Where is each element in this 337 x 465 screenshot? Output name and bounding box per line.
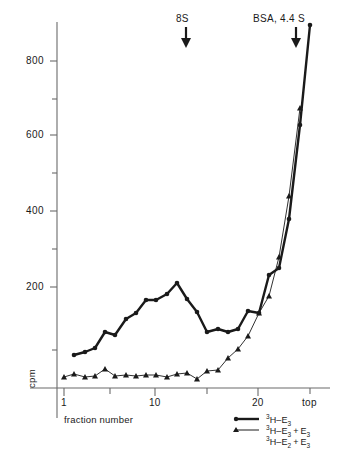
y-axis-ticks-major: [50, 61, 57, 287]
legend-sample-circle: [234, 417, 259, 421]
x-tick-label-10: 10: [149, 397, 161, 408]
y-tick-label-200: 200: [26, 281, 44, 292]
y-tick-label-800: 800: [26, 55, 44, 66]
series-triangle-line: [64, 108, 300, 379]
x-tick-label-top: top: [302, 397, 317, 408]
y-tick-label-400: 400: [26, 205, 44, 216]
legend-label-3: 3H–E2 + E3: [266, 435, 310, 449]
y-axis-title: cpm: [26, 369, 37, 388]
annotation-8s-label: 8S: [176, 13, 189, 24]
y-axis-ticks-minor: [52, 99, 57, 350]
x-tick-label-20: 20: [252, 397, 264, 408]
annotation-bsa-label: BSA, 4.4 S: [253, 13, 305, 24]
y-tick-label-600: 600: [26, 129, 44, 140]
marker-arrow-8s: [181, 27, 191, 48]
sedimentation-chart: [0, 0, 337, 465]
legend-sample-triangle: [233, 427, 259, 432]
series-circle-line: [74, 25, 310, 355]
x-axis-ticks: [64, 388, 310, 396]
marker-arrow-bsa: [291, 27, 301, 48]
x-axis-title: fraction number: [64, 414, 133, 425]
x-tick-label-1: 1: [61, 397, 67, 408]
series-triangle-markers: [61, 105, 303, 382]
